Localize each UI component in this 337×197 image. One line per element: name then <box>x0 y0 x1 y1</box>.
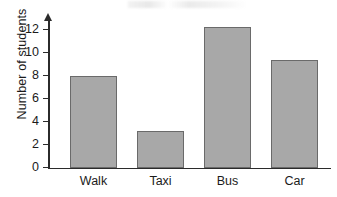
bar-taxi <box>137 131 184 168</box>
x-label-taxi: Taxi <box>137 174 184 188</box>
bar-car <box>271 60 318 168</box>
x-axis-line <box>48 168 331 170</box>
x-label-bus: Bus <box>204 174 251 188</box>
x-label-car: Car <box>271 174 318 188</box>
bar-bus <box>204 27 251 167</box>
bar-chart: Number of students 024681012 WalkTaxiBus… <box>0 0 337 197</box>
bar-walk <box>70 76 117 168</box>
bars-layer <box>0 0 337 168</box>
x-label-walk: Walk <box>70 174 117 188</box>
